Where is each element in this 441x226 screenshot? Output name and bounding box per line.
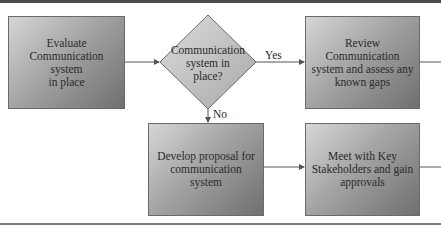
line: system and assess any [312, 63, 414, 75]
line: Communication [171, 44, 245, 56]
line: known gaps [335, 76, 390, 88]
line: place? [193, 70, 222, 82]
line: approvals [340, 176, 385, 188]
node-develop-label: Develop proposal for communication syste… [149, 150, 263, 189]
edge-label-yes: Yes [265, 49, 282, 61]
node-review: Review Communication system and assess a… [305, 16, 420, 109]
node-decision-label: Communication system in place? [168, 44, 248, 83]
node-meet: Meet with Key Stakeholders and gain appr… [305, 123, 420, 216]
line: communication system [170, 163, 242, 188]
line: Evaluate [46, 37, 86, 49]
line: Stakeholders and gain [312, 163, 414, 175]
node-evaluate-label: Evaluate Communication system in place [9, 37, 124, 89]
node-develop: Develop proposal for communication syste… [148, 123, 264, 216]
edge-label-no: No [213, 108, 227, 120]
bottom-rule [0, 223, 441, 225]
line: Develop proposal for [157, 150, 255, 162]
line: system in [186, 57, 230, 69]
line: Communication system [29, 50, 103, 75]
line: Meet with Key [328, 150, 397, 162]
line: Review Communication [325, 37, 399, 62]
node-review-label: Review Communication system and assess a… [306, 37, 419, 89]
node-evaluate: Evaluate Communication system in place [8, 16, 125, 109]
node-meet-label: Meet with Key Stakeholders and gain appr… [308, 150, 418, 189]
line: in place [48, 76, 84, 88]
